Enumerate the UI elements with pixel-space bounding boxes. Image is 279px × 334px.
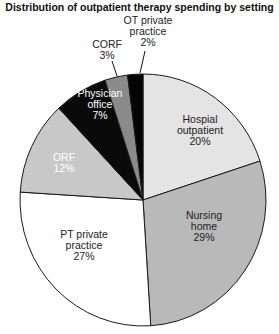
slice-label-orf: ORF12%	[53, 151, 75, 174]
corf-leader-line	[112, 61, 117, 76]
slice-label-corf: CORF3%	[92, 38, 122, 61]
pie-slices	[20, 74, 266, 326]
ot-private-practice-leader-line	[140, 51, 145, 73]
pie-chart: Hospialoutpatient20%Nursinghome29%PT pri…	[0, 0, 279, 334]
slice-label-ot-private-practice: OT privatepractice2%	[124, 14, 173, 48]
